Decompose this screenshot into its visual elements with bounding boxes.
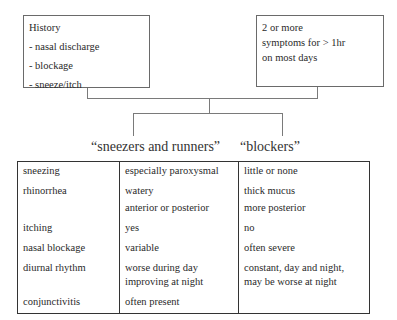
sneezers-cell: often present <box>120 293 239 314</box>
sneezers-line: anterior or posterior <box>125 201 233 215</box>
blockers-cell: constant, day and night, may be worse at… <box>239 259 370 293</box>
criteria-box: 2 or more symptoms for > 1hr on most day… <box>256 15 384 87</box>
blockers-cell: often severe <box>239 239 370 259</box>
connector-center-vertical <box>209 98 210 113</box>
blockers-line: thick mucus <box>244 185 295 196</box>
criteria-line: 2 or more <box>262 20 378 35</box>
sneezers-cell: variable <box>120 239 239 259</box>
connector-split-right-drop <box>282 113 283 136</box>
blockers-cell: thick mucus more posterior <box>239 182 370 219</box>
blockers-line: more posterior <box>244 201 364 215</box>
table-row: conjunctivitis often present <box>18 293 370 314</box>
blockers-cell <box>239 293 370 314</box>
sneezers-cell: worse during day improving at night <box>120 259 239 293</box>
connector-top-horizontal <box>87 98 318 99</box>
blockers-cell: no <box>239 219 370 239</box>
table-row: sneezing especially paroxysmal little or… <box>18 162 370 183</box>
sneezers-cell: watery anterior or posterior <box>120 182 239 219</box>
table-row: nasal blockage variable often severe <box>18 239 370 259</box>
sneezers-line: watery <box>125 185 154 196</box>
feature-cell: rhinorrhea <box>18 182 120 219</box>
table-row: itching yes no <box>18 219 370 239</box>
history-item: - nasal discharge <box>29 37 144 56</box>
feature-cell: conjunctivitis <box>18 293 120 314</box>
feature-cell: itching <box>18 219 120 239</box>
table-row: diurnal rhythm worse during day improvin… <box>18 259 370 293</box>
blockers-cell: little or none <box>239 162 370 183</box>
sneezers-cell: yes <box>120 219 239 239</box>
sneezers-cell: especially paroxysmal <box>120 162 239 183</box>
feature-cell: sneezing <box>18 162 120 183</box>
feature-cell: nasal blockage <box>18 239 120 259</box>
history-item: - blockage <box>29 56 144 75</box>
criteria-line: symptoms for > 1hr <box>262 35 378 50</box>
history-box: History - nasal discharge - blockage - s… <box>23 15 150 88</box>
connector-left-drop <box>87 88 88 98</box>
comparison-table: sneezing especially paroxysmal little or… <box>17 161 370 314</box>
feature-cell: diurnal rhythm <box>18 259 120 293</box>
history-title: History <box>29 18 144 37</box>
heading-sneezers-runners: “sneezers and runners” <box>91 139 220 155</box>
connector-split-horizontal <box>133 113 283 114</box>
criteria-line: on most days <box>262 50 378 65</box>
connector-split-left-drop <box>133 113 134 136</box>
table-row: rhinorrhea watery anterior or posterior … <box>18 182 370 219</box>
heading-blockers: “blockers” <box>240 139 300 155</box>
connector-right-drop <box>317 87 318 98</box>
